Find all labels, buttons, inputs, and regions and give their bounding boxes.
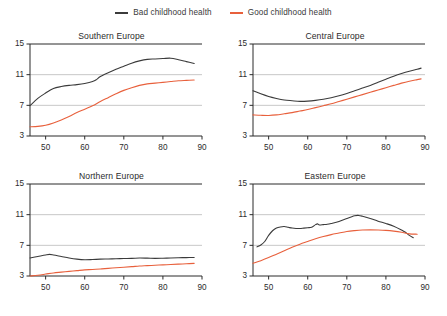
svg-text:15: 15 [238,39,248,48]
svg-text:3: 3 [19,131,24,140]
svg-text:7: 7 [242,101,247,110]
svg-text:50: 50 [41,143,51,152]
chart-legend: Bad childhood health Good childhood heal… [0,8,447,17]
svg-text:15: 15 [15,179,25,188]
svg-text:3: 3 [242,271,247,280]
svg-text:3: 3 [242,131,247,140]
line-swatch-icon [230,12,243,14]
plot-area: 3711155060708090 [253,44,447,160]
svg-text:70: 70 [119,143,129,152]
svg-text:90: 90 [420,143,430,152]
svg-text:50: 50 [264,143,274,152]
svg-text:70: 70 [119,283,129,292]
panel-title: Northern Europe [0,171,223,181]
svg-text:60: 60 [303,143,313,152]
legend-label-bad: Bad childhood health [133,8,211,17]
svg-text:15: 15 [238,179,248,188]
panel-central-europe: Central Europe 3711155060708090 [223,28,447,168]
legend-entry-good: Good childhood health [230,8,332,17]
panel-title: Southern Europe [0,31,223,41]
svg-text:80: 80 [381,143,391,152]
svg-text:15: 15 [15,39,25,48]
svg-text:60: 60 [303,283,313,292]
plot-area: 3711155060708090 [30,184,228,300]
svg-text:90: 90 [197,283,207,292]
svg-text:50: 50 [41,283,51,292]
svg-text:11: 11 [16,210,25,219]
svg-text:50: 50 [264,283,274,292]
svg-text:11: 11 [239,70,248,79]
svg-text:80: 80 [158,143,168,152]
svg-text:7: 7 [19,241,24,250]
svg-text:3: 3 [19,271,24,280]
svg-text:11: 11 [239,210,248,219]
svg-text:80: 80 [158,283,168,292]
svg-text:70: 70 [342,143,352,152]
svg-text:80: 80 [381,283,391,292]
plot-area: 3711155060708090 [30,44,228,160]
svg-text:7: 7 [242,241,247,250]
svg-text:60: 60 [80,143,90,152]
panel-northern-europe: Northern Europe 3711155060708090 [0,168,223,314]
svg-text:70: 70 [342,283,352,292]
svg-text:7: 7 [19,101,24,110]
panel-title: Central Europe [223,31,447,41]
svg-text:60: 60 [80,283,90,292]
svg-text:11: 11 [16,70,25,79]
panel-southern-europe: Southern Europe 3711155060708090 [0,28,223,168]
svg-text:90: 90 [197,143,207,152]
figure-container: Bad childhood health Good childhood heal… [0,0,447,316]
legend-entry-bad: Bad childhood health [115,8,211,17]
plot-area: 3711155060708090 [253,184,447,300]
legend-label-good: Good childhood health [248,8,332,17]
panel-eastern-europe: Eastern Europe 3711155060708090 [223,168,447,314]
panel-title: Eastern Europe [223,171,447,181]
panel-grid: Southern Europe 3711155060708090 Central… [0,28,447,316]
line-swatch-icon [115,12,128,14]
svg-text:90: 90 [420,283,430,292]
